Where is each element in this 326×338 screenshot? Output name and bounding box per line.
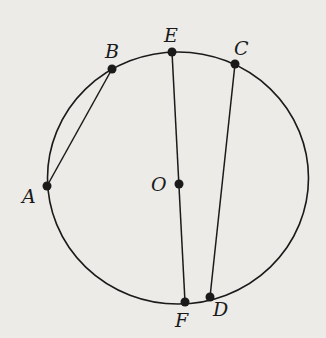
point-c: [231, 60, 240, 69]
circle-diagram: A B E C O F D: [0, 0, 326, 338]
point-f: [181, 298, 190, 307]
label-e: E: [163, 24, 178, 46]
label-a: A: [20, 185, 36, 207]
chord-cd: [210, 64, 235, 297]
chord-ab: [47, 69, 112, 186]
point-a: [43, 182, 52, 191]
chord-ef: [172, 52, 185, 302]
label-d: D: [212, 298, 228, 320]
point-e: [168, 48, 177, 57]
label-f: F: [174, 309, 189, 331]
label-o: O: [151, 173, 167, 195]
label-b: B: [104, 40, 119, 62]
label-c: C: [234, 37, 249, 59]
point-b: [108, 65, 117, 74]
point-o: [175, 180, 184, 189]
